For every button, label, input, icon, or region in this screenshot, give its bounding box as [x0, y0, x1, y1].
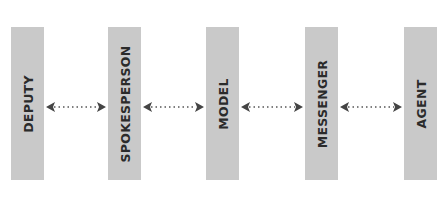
node-label: AGENT	[413, 79, 428, 128]
node-model: MODEL	[206, 27, 239, 180]
node-deputy: DEPUTY	[11, 27, 44, 180]
bidirectional-arrow-icon	[142, 101, 205, 113]
node-label: MODEL	[215, 78, 230, 129]
node-label: DEPUTY	[20, 75, 35, 133]
node-messenger: MESSENGER	[305, 27, 338, 180]
bidirectional-arrow-icon	[240, 101, 304, 113]
bidirectional-arrow-icon	[45, 101, 107, 113]
node-label: MESSENGER	[314, 59, 329, 148]
node-agent: AGENT	[404, 27, 437, 180]
node-label: SPOKESPERSON	[117, 45, 132, 162]
node-spokesperson: SPOKESPERSON	[108, 27, 141, 180]
bidirectional-arrow-icon	[339, 101, 403, 113]
